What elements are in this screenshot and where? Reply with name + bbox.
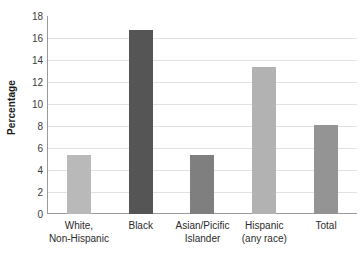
x-axis-label-line-1: White, xyxy=(65,220,93,231)
y-axis-title-text: Percentage xyxy=(6,80,17,135)
bar-slot xyxy=(172,16,234,214)
bar[interactable] xyxy=(190,155,214,214)
y-axis-tick-label: 18 xyxy=(32,11,43,22)
y-axis-tick-label: 0 xyxy=(37,209,43,220)
bar[interactable] xyxy=(252,67,276,214)
y-axis-tick-label: 14 xyxy=(32,55,43,66)
y-axis-title: Percentage xyxy=(0,0,22,214)
x-axis-category-label: Black xyxy=(110,219,172,232)
x-axis-label-line-1: Asian/Picific xyxy=(176,220,230,231)
y-axis-tick-label: 10 xyxy=(32,99,43,110)
bars-group xyxy=(48,16,357,214)
y-axis-tick-labels: 024681012141618 xyxy=(22,0,46,214)
bar[interactable] xyxy=(129,30,153,214)
bar[interactable] xyxy=(67,155,91,214)
y-axis-tick-label: 16 xyxy=(32,33,43,44)
y-axis-tick-label: 6 xyxy=(37,143,43,154)
x-axis-label-line-2: Non-Hispanic xyxy=(48,232,110,245)
bar-slot xyxy=(110,16,172,214)
bar[interactable] xyxy=(314,125,338,214)
y-axis-tick-label: 2 xyxy=(37,187,43,198)
x-axis-category-label: White,Non-Hispanic xyxy=(48,219,110,245)
y-axis-tick-label: 8 xyxy=(37,121,43,132)
x-axis-label-line-2: Islander xyxy=(172,232,234,245)
x-axis-label-line-1: Black xyxy=(128,220,152,231)
plot-area xyxy=(47,16,357,214)
y-axis-tick-label: 12 xyxy=(32,77,43,88)
x-axis-label-line-1: Total xyxy=(316,220,337,231)
x-axis-label-line-1: Hispanic xyxy=(245,220,283,231)
bar-slot xyxy=(295,16,357,214)
bar-slot xyxy=(233,16,295,214)
bar-chart: Percentage 024681012141618 White,Non-His… xyxy=(0,0,362,264)
x-axis-label-line-2: (any race) xyxy=(233,232,295,245)
bar-slot xyxy=(48,16,110,214)
x-axis-category-labels: White,Non-HispanicBlackAsian/PicificIsla… xyxy=(48,219,357,261)
x-axis-category-label: Asian/PicificIslander xyxy=(172,219,234,245)
y-axis-tick-label: 4 xyxy=(37,165,43,176)
x-axis-category-label: Hispanic(any race) xyxy=(233,219,295,245)
x-axis-category-label: Total xyxy=(295,219,357,232)
